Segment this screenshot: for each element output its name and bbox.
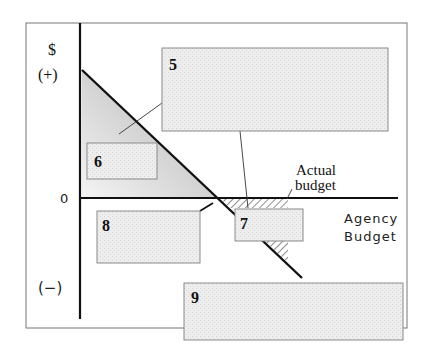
actual-budget-label-line2: budget <box>295 177 337 193</box>
box-7: 7 <box>235 209 303 241</box>
y-axis-negative-label: (−) <box>38 279 62 297</box>
leader-line-8 <box>200 203 213 211</box>
box-8-number: 8 <box>102 217 110 234</box>
x-axis-label-line2: Budget <box>344 229 397 244</box>
y-axis-positive-label: (+) <box>38 66 58 84</box>
box-9: 9 <box>184 283 403 340</box>
box-5: 5 <box>162 48 388 131</box>
actual-budget-label-line1: Actual <box>296 162 336 178</box>
x-axis-label-line1: Agency <box>344 211 398 226</box>
leader-line-5-to-7 <box>240 131 248 208</box>
box-6: 6 <box>87 143 157 179</box>
y-axis-dollar-label: $ <box>48 41 56 58</box>
box-6-number: 6 <box>94 153 102 170</box>
box-9-number: 9 <box>191 289 199 306</box>
y-axis-zero-label: 0 <box>60 191 68 206</box>
box-5-number: 5 <box>169 56 177 73</box>
box-8: 8 <box>97 211 200 263</box>
actual-budget-hatch-lower <box>265 241 288 263</box>
actual-budget-hatch-upper <box>220 198 288 208</box>
box-7-number: 7 <box>240 215 248 232</box>
agency-budget-diagram: 5 6 7 8 9 $ (+) 0 (−) Agency Budget Actu… <box>0 0 429 363</box>
